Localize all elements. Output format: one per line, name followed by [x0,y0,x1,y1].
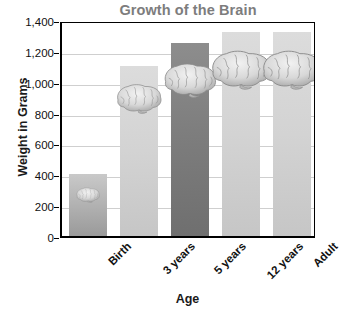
y-tick-mark [54,84,59,85]
bar-birth [69,174,107,236]
y-tick-mark [54,22,59,23]
x-tick-label: 5 years [212,240,249,277]
y-tick-label: 1,200 [8,47,54,59]
y-tick-label: 800 [8,109,54,121]
bar-12-years [222,32,260,236]
x-tick-label: Birth [106,240,133,267]
y-tick-label: 1,400 [8,16,54,28]
bar-series [62,23,314,236]
x-axis-title: Age [60,292,315,306]
y-tick-label: 1,000 [8,78,54,90]
y-tick-mark [54,115,59,116]
x-axis-tick-labels: Birth3 years5 years12 yearsAdult [60,240,315,288]
bar-3-years [120,66,158,236]
x-tick-label: 3 years [161,240,198,277]
y-tick-mark [54,238,59,239]
chart-title: Growth of the Brain [60,2,316,18]
y-tick-mark [54,207,59,208]
y-tick-label: 0 [8,232,54,244]
y-tick-mark [54,176,59,177]
bar-5-years [171,43,209,236]
y-tick-label: 600 [8,139,54,151]
x-tick-label: Adult [311,240,340,269]
plot-area [60,22,315,238]
y-tick-mark [54,53,59,54]
x-tick-label: 12 years [264,240,305,281]
y-axis-tick-labels: 02004006008001,0001,2001,400 [6,22,54,238]
y-tick-label: 400 [8,170,54,182]
y-tick-label: 200 [8,201,54,213]
bar-adult [273,32,311,236]
y-tick-mark [54,145,59,146]
